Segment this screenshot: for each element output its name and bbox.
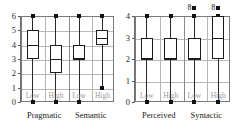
box-syntactic-low bbox=[188, 38, 200, 60]
category-label-high: High bbox=[211, 92, 226, 100]
whisker-cap bbox=[100, 86, 104, 90]
whisker-cap bbox=[145, 100, 149, 104]
outlier-label: 8 bbox=[187, 4, 191, 12]
whisker-cap bbox=[169, 14, 173, 18]
category-label-high: High bbox=[95, 92, 110, 100]
category-label-low: Low bbox=[188, 92, 202, 100]
median-line bbox=[164, 59, 176, 60]
y-tick-label: 2 bbox=[116, 55, 130, 63]
category-separator bbox=[184, 17, 185, 101]
whisker-cap bbox=[192, 14, 196, 18]
y-tick-label: 5 bbox=[2, 26, 16, 34]
y-tick-label: 6 bbox=[2, 12, 16, 20]
median-line bbox=[27, 45, 39, 46]
whisker-cap bbox=[192, 100, 196, 104]
whisker-cap bbox=[216, 100, 220, 104]
category-label-high: High bbox=[48, 92, 63, 100]
y-tick-label: 4 bbox=[2, 41, 16, 49]
outlier-label: 8 bbox=[211, 4, 215, 12]
gridline bbox=[136, 82, 229, 83]
category-label-low: Low bbox=[26, 92, 40, 100]
outlier-point bbox=[216, 6, 220, 10]
category-separator bbox=[207, 17, 208, 101]
whisker-cap bbox=[145, 14, 149, 18]
whisker-cap bbox=[31, 14, 35, 18]
y-tick-label: 0 bbox=[2, 98, 16, 106]
gridline bbox=[22, 60, 113, 61]
gridline bbox=[22, 74, 113, 75]
box-perceived-low bbox=[141, 38, 153, 60]
boxplot-figure: 0123456LowHighLowHighPragmaticSemantic01… bbox=[0, 0, 234, 136]
box-semantic-low bbox=[73, 45, 85, 59]
category-label-high: High bbox=[163, 92, 178, 100]
group-label-perceived: Perceived bbox=[142, 110, 176, 120]
outlier-point bbox=[192, 6, 196, 10]
median-line bbox=[73, 59, 85, 60]
y-tick-label: 0 bbox=[116, 98, 130, 106]
gridline bbox=[22, 89, 113, 90]
category-separator bbox=[45, 17, 46, 101]
whisker-line bbox=[32, 16, 33, 102]
group-label-semantic: Semantic bbox=[75, 110, 107, 120]
y-axis-line bbox=[134, 16, 135, 103]
group-label-pragmatic: Pragmatic bbox=[27, 110, 61, 120]
y-tick-label: 3 bbox=[2, 55, 16, 63]
whisker-cap bbox=[100, 14, 104, 18]
whisker-cap bbox=[77, 100, 81, 104]
whisker-cap bbox=[54, 100, 58, 104]
y-tick-label: 1 bbox=[2, 84, 16, 92]
y-tick-label: 4 bbox=[116, 12, 130, 20]
whisker-cap bbox=[31, 100, 35, 104]
median-line bbox=[50, 59, 62, 60]
y-tick-label: 1 bbox=[116, 77, 130, 85]
category-label-low: Low bbox=[140, 92, 154, 100]
y-axis-line bbox=[20, 16, 21, 103]
category-label-low: Low bbox=[72, 92, 86, 100]
group-label-syntactic: Syntactic bbox=[190, 110, 222, 120]
whisker-cap bbox=[169, 100, 173, 104]
category-separator bbox=[160, 17, 161, 101]
whisker-line bbox=[102, 16, 103, 88]
median-line bbox=[212, 38, 224, 39]
median-line bbox=[141, 59, 153, 60]
category-separator bbox=[92, 17, 93, 101]
y-tick-label: 2 bbox=[2, 69, 16, 77]
median-line bbox=[96, 38, 108, 39]
whisker-cap bbox=[77, 14, 81, 18]
category-separator bbox=[69, 17, 70, 101]
box-perceived-high bbox=[164, 38, 176, 60]
y-tick-label: 3 bbox=[116, 34, 130, 42]
whisker-cap bbox=[54, 14, 58, 18]
median-line bbox=[188, 59, 200, 60]
